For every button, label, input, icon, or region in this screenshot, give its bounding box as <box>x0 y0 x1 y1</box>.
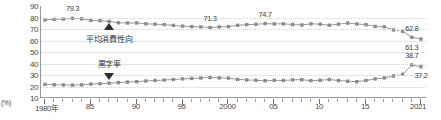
y-axis-tick-label: 70 <box>2 25 38 34</box>
data-point-marker <box>181 24 184 27</box>
data-point-label: 71.3 <box>204 14 217 23</box>
data-point-marker <box>126 80 129 83</box>
data-point-marker <box>218 76 221 79</box>
x-axis-tick-mark <box>108 99 109 102</box>
data-point-marker <box>383 76 386 79</box>
data-point-marker <box>318 79 321 82</box>
data-point-marker <box>135 21 138 24</box>
data-point-marker <box>355 22 358 25</box>
data-point-marker <box>190 77 193 80</box>
x-axis-tick-mark <box>392 99 393 102</box>
data-point-marker <box>135 80 138 83</box>
gridline <box>41 29 426 30</box>
data-point-marker <box>383 25 386 28</box>
y-axis-tick-label: 90 <box>2 2 38 11</box>
data-point-marker <box>89 19 92 22</box>
data-point-marker <box>364 23 367 26</box>
x-axis-tick-mark <box>209 99 210 102</box>
x-axis-tick-mark <box>127 99 128 102</box>
gridline <box>41 52 426 53</box>
x-axis: 1980年85909520000510152021 <box>40 99 426 119</box>
data-point-marker <box>163 23 166 26</box>
data-point-marker <box>346 21 349 24</box>
data-point-marker <box>300 78 303 81</box>
data-point-marker <box>410 36 413 39</box>
x-axis-tick-mark <box>264 99 265 102</box>
data-point-marker <box>373 25 376 28</box>
x-axis-tick-label: 90 <box>132 102 140 111</box>
plot-area: 79.371.374.762.861.338.737.2平均消費性向黒字率 <box>40 6 426 98</box>
data-point-marker <box>245 78 248 81</box>
gridline <box>41 87 426 88</box>
x-axis-tick-mark <box>117 99 118 102</box>
data-point-marker <box>373 77 376 80</box>
data-point-marker <box>273 22 276 25</box>
x-axis-tick-mark <box>282 99 283 102</box>
data-point-marker <box>328 24 331 27</box>
x-axis-tick-mark <box>81 99 82 102</box>
data-point-marker <box>43 18 46 21</box>
chart-container: 908070605040302010 (%) 79.371.374.762.86… <box>0 0 441 120</box>
x-axis-tick-mark <box>172 99 173 102</box>
data-point-marker <box>153 79 156 82</box>
data-point-marker <box>254 79 257 82</box>
data-point-marker <box>309 22 312 25</box>
annotation-pointer-up-icon <box>104 23 114 30</box>
data-point-marker <box>318 22 321 25</box>
x-axis-tick-label: 2000 <box>219 102 235 111</box>
x-axis-tick-mark <box>200 99 201 102</box>
data-point-label: 79.3 <box>66 4 79 13</box>
x-axis-tick-label: 05 <box>269 102 277 111</box>
y-axis-tick-label: 60 <box>2 36 38 45</box>
x-axis-tick-mark <box>72 99 73 102</box>
data-point-marker <box>401 30 404 33</box>
data-point-marker <box>291 78 294 81</box>
data-point-label: 62.8 <box>405 24 418 33</box>
y-axis-unit-label: (%) <box>1 99 11 106</box>
data-point-marker <box>98 19 101 22</box>
data-point-marker <box>117 81 120 84</box>
data-point-marker <box>98 82 101 85</box>
x-axis-tick-mark <box>154 99 155 102</box>
data-point-marker <box>144 22 147 25</box>
x-axis-tick-mark <box>163 99 164 102</box>
x-axis-tick-label: 10 <box>315 102 323 111</box>
y-axis-tick-label: 50 <box>2 48 38 57</box>
y-axis-tick-label: 20 <box>2 82 38 91</box>
data-point-marker <box>300 23 303 26</box>
x-axis-tick-mark <box>292 99 293 102</box>
x-axis-tick-label: 1980年 <box>35 102 59 113</box>
data-point-marker <box>263 22 266 25</box>
data-point-marker <box>199 76 202 79</box>
data-point-marker <box>236 24 239 27</box>
x-axis-tick-mark <box>145 99 146 102</box>
data-point-marker <box>282 22 285 25</box>
data-point-label: 74.7 <box>259 10 272 19</box>
data-point-marker <box>263 79 266 82</box>
data-point-marker <box>208 76 211 79</box>
y-axis-tick-label: 40 <box>2 59 38 68</box>
gridline <box>41 75 426 76</box>
data-point-marker <box>190 25 193 28</box>
x-axis-tick-label: 2021 <box>410 102 426 111</box>
data-point-marker <box>328 78 331 81</box>
data-point-marker <box>346 80 349 83</box>
data-point-marker <box>181 77 184 80</box>
x-axis-tick-mark <box>301 99 302 102</box>
data-point-label: 38.7 <box>405 51 418 60</box>
x-axis-tick-mark <box>402 99 403 102</box>
annotation-pointer-down-icon <box>104 73 114 80</box>
data-point-marker <box>117 21 120 24</box>
series-annotation-label: 黒字率 <box>98 58 121 69</box>
x-axis-tick-mark <box>62 99 63 102</box>
x-axis-tick-mark <box>347 99 348 102</box>
data-point-marker <box>163 78 166 81</box>
x-axis-tick-mark <box>328 99 329 102</box>
data-point-marker <box>236 78 239 81</box>
x-axis-tick-mark <box>310 99 311 102</box>
data-point-marker <box>282 79 285 82</box>
x-axis-tick-mark <box>374 99 375 102</box>
x-axis-tick-label: 15 <box>361 102 369 111</box>
data-point-marker <box>43 83 46 86</box>
y-axis-tick-label: 30 <box>2 71 38 80</box>
